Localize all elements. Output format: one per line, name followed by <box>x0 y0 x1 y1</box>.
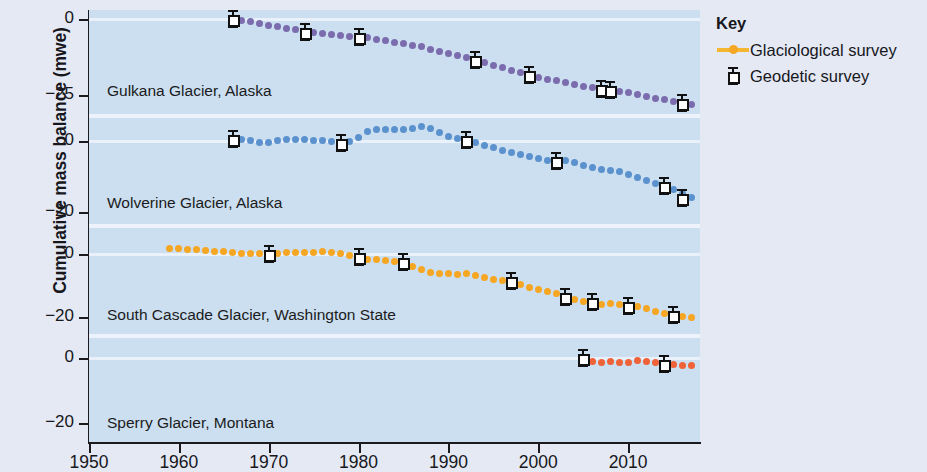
data-point <box>310 137 317 144</box>
data-point <box>643 358 650 365</box>
y-tick <box>79 212 88 214</box>
data-point <box>409 42 416 49</box>
data-point <box>688 362 695 369</box>
data-point <box>652 95 659 102</box>
x-tick-label: 1980 <box>324 452 394 472</box>
zero-gridline <box>89 140 700 143</box>
legend-title: Key <box>716 14 926 33</box>
y-tick <box>79 358 88 360</box>
y-tick <box>79 95 88 97</box>
error-bar-square-icon <box>716 66 750 86</box>
data-point <box>499 147 506 154</box>
data-point <box>598 166 605 173</box>
data-point <box>625 359 632 366</box>
geodetic-marker <box>623 297 633 315</box>
geodetic-marker <box>551 152 561 170</box>
geodetic-marker <box>228 130 238 148</box>
data-point <box>643 93 650 100</box>
y-tick <box>79 423 88 425</box>
data-point <box>301 249 308 256</box>
data-point <box>427 269 434 276</box>
geodetic-marker <box>506 272 516 290</box>
x-tick-label: 1950 <box>54 452 124 472</box>
data-point <box>265 139 272 146</box>
data-point <box>472 272 479 279</box>
data-point <box>607 167 614 174</box>
data-point <box>373 126 380 133</box>
y-tick <box>79 141 88 143</box>
data-point <box>328 31 335 38</box>
geodetic-marker <box>677 94 687 112</box>
y-tick-label: 0 <box>0 243 74 263</box>
x-tick-label: 2000 <box>503 452 573 472</box>
legend-item-glaciological: Glaciological survey <box>716 40 926 60</box>
y-tick-label: −25 <box>0 84 74 104</box>
data-point <box>346 33 353 40</box>
data-point <box>571 159 578 166</box>
legend-item-geodetic: Geodetic survey <box>716 66 926 86</box>
geodetic-marker <box>398 253 408 271</box>
line-with-dot-icon <box>716 40 750 60</box>
panel-separator <box>89 224 700 228</box>
data-point <box>445 50 452 57</box>
y-tick-label: −20 <box>0 306 74 326</box>
geodetic-marker <box>677 189 687 207</box>
data-point <box>373 256 380 263</box>
data-point <box>283 249 290 256</box>
geodetic-marker <box>659 355 669 373</box>
geodetic-marker <box>354 28 364 46</box>
data-point <box>454 135 461 142</box>
panel-label: Gulkana Glacier, Alaska <box>107 82 272 100</box>
data-point <box>688 314 695 321</box>
data-point <box>319 30 326 37</box>
data-point <box>652 359 659 366</box>
data-point <box>274 137 281 144</box>
data-point <box>634 174 641 181</box>
data-point <box>391 39 398 46</box>
y-tick-label: −20 <box>0 412 74 432</box>
panel-label: South Cascade Glacier, Washington State <box>107 306 396 324</box>
geodetic-marker <box>587 293 597 311</box>
data-point <box>544 288 551 295</box>
legend: Key Glaciological survey Geodetic survey <box>716 14 926 92</box>
data-point <box>427 46 434 53</box>
data-point <box>283 136 290 143</box>
data-point <box>535 286 542 293</box>
panel-label: Wolverine Glacier, Alaska <box>107 194 282 212</box>
y-tick <box>79 317 88 319</box>
data-point <box>616 301 623 308</box>
geodetic-marker <box>300 23 310 41</box>
data-point <box>544 157 551 164</box>
data-point <box>292 136 299 143</box>
y-tick <box>79 254 88 256</box>
data-point <box>436 270 443 277</box>
data-point <box>544 76 551 83</box>
data-point <box>166 245 173 252</box>
data-point <box>490 62 497 69</box>
geodetic-marker <box>560 288 570 306</box>
x-tick-label: 1960 <box>144 452 214 472</box>
data-point <box>391 126 398 133</box>
data-point <box>670 98 677 105</box>
data-point <box>373 36 380 43</box>
data-point <box>499 64 506 71</box>
data-point <box>598 359 605 366</box>
data-point <box>643 177 650 184</box>
data-point <box>346 252 353 259</box>
geodetic-marker <box>605 81 615 99</box>
data-point <box>337 32 344 39</box>
x-tick-label: 1990 <box>413 452 483 472</box>
geodetic-marker <box>578 349 588 367</box>
geodetic-marker <box>524 66 534 84</box>
data-point <box>526 284 533 291</box>
geodetic-marker <box>668 306 678 324</box>
data-point <box>454 271 461 278</box>
data-point <box>382 257 389 264</box>
data-point <box>454 52 461 59</box>
y-tick-label: −20 <box>0 201 74 221</box>
geodetic-marker <box>354 248 364 266</box>
data-point <box>625 171 632 178</box>
data-point <box>661 310 668 317</box>
y-tick-label: 0 <box>0 130 74 150</box>
plot-area: Gulkana Glacier, AlaskaWolverine Glacier… <box>89 10 700 442</box>
